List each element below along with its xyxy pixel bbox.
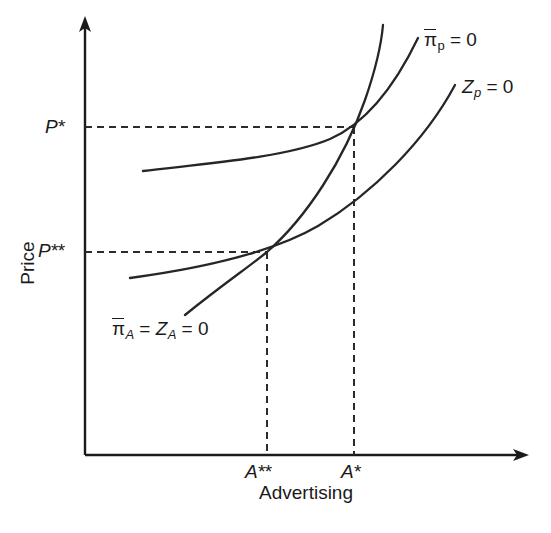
- x-axis-title: Advertising: [226, 482, 386, 504]
- pi-p-equation: = 0: [445, 29, 477, 50]
- x-tick-label-a-double-star: A**: [245, 462, 271, 481]
- overbar-icon: [424, 29, 436, 31]
- y-axis-title: Price: [17, 223, 39, 303]
- pi-p-overbar-group: π: [424, 30, 437, 49]
- z-a-subscript: A: [167, 327, 176, 342]
- curve-label-pi-bar-p: πp = 0: [424, 30, 477, 52]
- overbar-icon: [112, 318, 124, 320]
- z-a-symbol: Z: [156, 318, 168, 339]
- y-tick-label-p-star: P*: [45, 117, 64, 136]
- a-star-text: A*: [341, 461, 360, 482]
- y-tick-label-p-double-star: P**: [38, 241, 64, 260]
- pi-a-symbol: π: [112, 318, 125, 339]
- p-star-text: P*: [45, 116, 64, 137]
- a-double-star-text: A**: [245, 461, 271, 482]
- z-p-equation: = 0: [481, 76, 513, 97]
- z-a-equation: = 0: [176, 318, 208, 339]
- pi-a-mid-equals: =: [134, 318, 156, 339]
- pi-p-symbol: π: [424, 29, 437, 50]
- x-tick-label-a-star: A*: [341, 462, 360, 481]
- p-double-star-text: P**: [38, 240, 64, 261]
- pi-a-overbar-group: π: [112, 319, 125, 338]
- z-p-subscript: p: [474, 85, 482, 100]
- curve-label-z-p: Zp = 0: [462, 77, 513, 99]
- z-p-symbol: Z: [462, 76, 474, 97]
- curve-label-pi-bar-A-z-A: πA = ZA = 0: [112, 319, 209, 341]
- pi-p-subscript: p: [437, 38, 445, 53]
- pi-a-subscript: A: [125, 327, 134, 342]
